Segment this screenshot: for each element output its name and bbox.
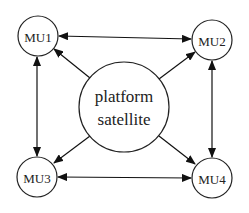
edge-center-mu1 [54,49,90,78]
node-mu3: MU3 [17,157,57,197]
node-platform-satellite: platform satellite [79,62,169,152]
edge-mu3-mu4 [58,177,191,178]
edge-center-mu2 [159,52,195,79]
edge-center-mu3 [54,136,90,163]
node-mu4-label: MU4 [198,172,226,187]
center-label-line1: platform [95,87,154,106]
node-mu2-label: MU2 [198,34,225,49]
edge-mu1-mu2 [59,36,191,39]
node-mu1: MU1 [18,16,58,56]
center-label-line2: satellite [98,110,151,129]
node-mu2: MU2 [192,20,232,60]
node-mu1-label: MU1 [24,30,51,45]
edge-center-mu4 [159,136,195,164]
node-mu4: MU4 [192,158,232,198]
network-diagram: MU1 MU2 MU3 MU4 platform satellite [0,0,249,213]
node-mu3-label: MU3 [23,171,50,186]
